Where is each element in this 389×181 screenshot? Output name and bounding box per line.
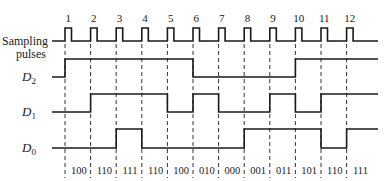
d0-wave — [52, 129, 378, 148]
pulse-number: 5 — [168, 12, 174, 24]
state-label: 100 — [71, 165, 87, 176]
waveforms — [52, 28, 378, 148]
signal-labels: Sampling pulses D2 D1 D0 — [2, 34, 48, 157]
sampling-label-2: pulses — [16, 47, 46, 61]
pulse-number: 11 — [319, 12, 330, 24]
d1-wave — [52, 94, 378, 112]
state-label: 000 — [225, 165, 241, 176]
state-label: 110 — [97, 165, 112, 176]
pulse-number: 9 — [270, 12, 276, 24]
state-label: 111 — [123, 165, 138, 176]
pulse-number: 10 — [293, 12, 305, 24]
sampling-label: Sampling — [2, 34, 48, 48]
pulse-number: 4 — [142, 12, 148, 24]
sampling-pulses-wave — [52, 28, 378, 41]
d2-wave — [52, 59, 378, 77]
state-label: 001 — [250, 165, 266, 176]
d0-label: D0 — [21, 140, 36, 157]
pulse-number: 12 — [344, 12, 355, 24]
pulse-number: 2 — [91, 12, 97, 24]
state-label: 110 — [327, 165, 342, 176]
pulse-number: 3 — [117, 12, 123, 24]
state-value-labels: 100110111110100010000001011101110111 — [71, 165, 368, 176]
pulse-number: 7 — [219, 12, 225, 24]
pulse-number: 8 — [245, 12, 251, 24]
d1-label: D1 — [21, 104, 36, 121]
d2-label: D2 — [21, 69, 36, 86]
pulse-number: 6 — [194, 12, 200, 24]
state-label: 110 — [148, 165, 163, 176]
state-label: 100 — [173, 165, 189, 176]
pulse-number-labels: 123456789101112 — [66, 12, 356, 24]
pulse-number: 1 — [66, 12, 72, 24]
state-label: 101 — [301, 165, 317, 176]
state-label: 111 — [353, 165, 368, 176]
state-label: 010 — [199, 165, 215, 176]
state-label: 011 — [276, 165, 291, 176]
sample-guide-lines — [65, 44, 347, 178]
timing-diagram: 123456789101112 100110111110100010000001… — [0, 0, 389, 181]
